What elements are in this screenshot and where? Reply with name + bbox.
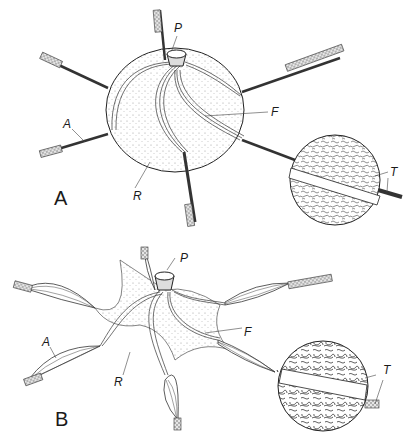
pore-b [155, 272, 174, 290]
magnified-section-a [289, 135, 402, 225]
panel-label-a: A [54, 187, 68, 209]
magnified-section-b [277, 341, 368, 431]
label-p-a: P [174, 21, 182, 35]
panel-a: P F A R T A [39, 10, 402, 227]
label-f-a: F [271, 105, 279, 119]
pore-a [167, 50, 186, 66]
receptacle-disc-a [106, 48, 244, 172]
label-f-b: F [244, 325, 252, 339]
label-t-b: T [383, 363, 392, 377]
label-r-b: R [114, 375, 123, 389]
panel-label-b: B [55, 408, 68, 430]
label-p-b: P [180, 251, 188, 265]
panel-b: P F A R T B [13, 247, 392, 431]
label-r-a: R [133, 189, 142, 203]
label-t-a: T [390, 165, 399, 179]
label-a-a: A [62, 117, 71, 131]
label-a-b: A [41, 335, 50, 349]
scientific-diagram: P F A R T A [0, 0, 418, 448]
